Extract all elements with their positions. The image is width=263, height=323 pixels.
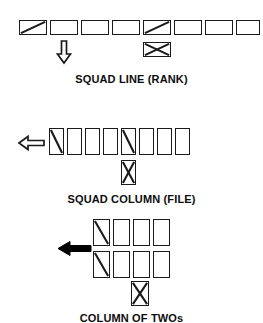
soldier-box xyxy=(93,251,110,278)
arrow-left-hollow-icon xyxy=(18,135,45,151)
soldier-box xyxy=(139,128,154,155)
formation-title-column-of-twos: COLUMN OF TWOs xyxy=(0,312,263,323)
box-with-x-marker xyxy=(143,42,171,57)
diagonal-mark-icon xyxy=(94,252,109,277)
soldier-box xyxy=(50,20,78,35)
soldier-box xyxy=(121,128,136,155)
formation-squad-column-file: SQUAD COLUMN (FILE) xyxy=(0,110,263,215)
soldier-box xyxy=(85,128,100,155)
box-with-x-marker xyxy=(131,281,149,306)
soldier-box xyxy=(153,251,170,278)
formation-title-squad-line-rank: SQUAD LINE (RANK) xyxy=(0,73,263,85)
diagonal-mark-icon xyxy=(122,129,135,154)
soldier-box xyxy=(236,20,260,35)
soldier-box xyxy=(205,20,233,35)
soldier-box xyxy=(103,128,118,155)
diagonal-mark-icon xyxy=(50,129,63,154)
diagonal-mark-icon xyxy=(144,21,170,34)
soldier-box xyxy=(113,219,130,246)
x-mark-icon xyxy=(144,43,170,56)
formation-squad-line-rank: SQUAD LINE (RANK) xyxy=(0,0,263,110)
soldier-box xyxy=(93,219,110,246)
arrow-down-hollow-icon xyxy=(56,40,72,64)
soldier-box xyxy=(49,128,64,155)
box-with-x-marker xyxy=(121,160,136,185)
soldier-box xyxy=(143,20,171,35)
soldier-box xyxy=(19,20,47,35)
formation-title-squad-column-file: SQUAD COLUMN (FILE) xyxy=(0,193,263,205)
soldier-box xyxy=(81,20,109,35)
soldier-box xyxy=(113,251,130,278)
soldier-box xyxy=(153,219,170,246)
formation-column-of-twos: COLUMN OF TWOs xyxy=(0,215,263,323)
soldier-box xyxy=(157,128,172,155)
squad-formation-diagram: SQUAD LINE (RANK) xyxy=(0,0,263,323)
soldier-box xyxy=(175,128,190,155)
soldier-box xyxy=(133,219,150,246)
soldier-box xyxy=(112,20,140,35)
x-mark-icon xyxy=(132,282,148,305)
diagonal-mark-icon xyxy=(20,21,46,34)
x-mark-icon xyxy=(122,161,135,184)
soldier-box xyxy=(174,20,202,35)
diagonal-mark-icon xyxy=(94,220,109,245)
arrow-left-solid-icon xyxy=(58,241,91,256)
soldier-box xyxy=(133,251,150,278)
soldier-box xyxy=(67,128,82,155)
